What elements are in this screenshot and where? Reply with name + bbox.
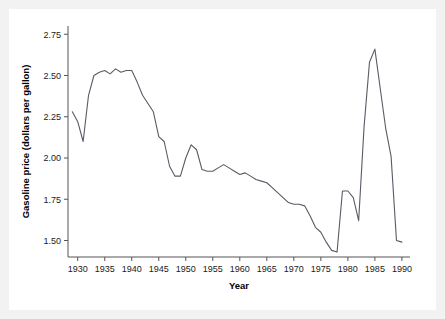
y-tick-label: 2.25 (43, 112, 61, 122)
x-tick-label: 1985 (365, 264, 385, 274)
x-tick-label: 1930 (68, 264, 88, 274)
y-tick-label: 2.00 (43, 153, 61, 163)
x-tick-label: 1950 (176, 264, 196, 274)
y-tick-label: 1.50 (43, 236, 61, 246)
y-tick-label: 2.75 (43, 30, 61, 40)
x-tick-label: 1970 (284, 264, 304, 274)
x-tick-label: 1955 (203, 264, 223, 274)
x-tick-label: 1990 (392, 264, 412, 274)
x-tick-label: 1980 (338, 264, 358, 274)
y-tick-label: 2.50 (43, 71, 61, 81)
x-tick-label: 1935 (95, 264, 115, 274)
x-tick-label: 1945 (149, 264, 169, 274)
line-chart: 1.501.752.002.252.502.75 193019351940194… (9, 9, 436, 310)
x-tick-label: 1965 (257, 264, 277, 274)
y-tick-label: 1.75 (43, 195, 61, 205)
y-axis-title: Gasoline price (dollars per gallon) (20, 65, 31, 219)
chart-figure: 1.501.752.002.252.502.75 193019351940194… (9, 9, 436, 310)
x-tick-label: 1975 (311, 264, 331, 274)
x-tick-label: 1960 (230, 264, 250, 274)
x-tick-label: 1940 (122, 264, 142, 274)
x-axis-title: Year (229, 280, 249, 291)
